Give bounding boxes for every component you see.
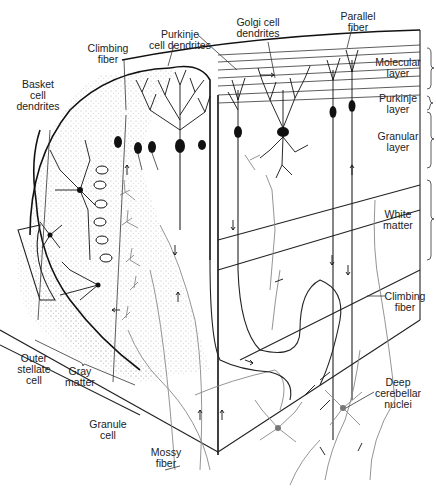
label-deep-cerebellar-nuclei: Deepcerebellarnuclei [375,376,422,410]
label-outer-stellate-cell: Outerstellatecell [17,352,50,386]
label-granule-cell: Granulecell [89,418,127,441]
label-molecular-layer: Molecularlayer [375,56,421,79]
label-basket-cell-dendrites: Basketcelldendrites [16,78,59,112]
deep-nuclei [255,372,362,442]
label-parallel-fiber: Parallelfiber [340,10,375,33]
label-mossy-fiber: Mossyfiber [151,446,182,469]
label-climbing-fiber-right: Climbingfiber [385,290,426,313]
label-golgi-cell-dendrites: Golgi celldendrites [236,16,279,39]
purkinje-cut-face [228,50,358,440]
label-purkinje-cell-dendrites: Purkinjecell dendrites [149,28,211,51]
label-climbing-fiber-top: Climbingfiber [88,42,129,65]
folium-outline [0,30,420,455]
cerebellum-diagram: Parallelfiber Golgi celldendrites Purkin… [0,0,436,490]
label-gray-matter: Graymatter [65,365,95,388]
label-purkinje-layer: Purkinjelayer [379,92,417,115]
label-granular-layer: Granularlayer [378,130,419,153]
layer-brackets [427,48,434,260]
label-white-matter: Whitematter [383,208,413,231]
